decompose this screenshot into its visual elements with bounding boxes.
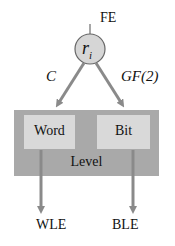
node-symbol: r <box>82 38 89 58</box>
level-label: Level <box>14 155 159 169</box>
node-subscript: i <box>89 49 92 61</box>
left-branch-arrow <box>58 63 84 104</box>
top-label: FE <box>100 11 116 25</box>
right-edge-label: GF(2) <box>121 69 159 84</box>
word-box-label: Word <box>24 124 75 138</box>
right-branch-arrow <box>96 63 122 104</box>
left-edge-label: C <box>46 69 56 84</box>
right-output-label: BLE <box>112 218 138 232</box>
left-output-label: WLE <box>36 218 66 232</box>
bit-box-label: Bit <box>97 124 150 138</box>
diagram-canvas <box>0 0 175 246</box>
node-label: ri <box>82 39 92 61</box>
